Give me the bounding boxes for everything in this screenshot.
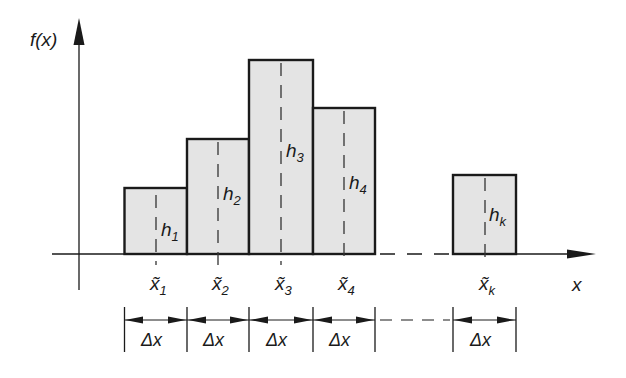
arrow-left-icon — [454, 317, 472, 324]
arrow-right-icon — [356, 317, 374, 324]
center-labels: x̃1 x̃2 x̃3 x̃4 x̃k — [149, 273, 497, 298]
width-label-1: Δx — [140, 330, 163, 350]
width-dimensions — [125, 307, 517, 352]
arrow-right-icon — [497, 317, 515, 324]
width-label-3: Δx — [265, 330, 288, 350]
arrow-left-icon — [250, 317, 268, 324]
width-label-k: Δx — [469, 330, 492, 350]
arrow-right-icon — [168, 317, 186, 324]
x-axis-label: x — [571, 274, 583, 295]
arrow-left-icon — [314, 317, 332, 324]
x-axis: x — [52, 250, 596, 296]
center-label-3: x̃3 — [274, 273, 293, 298]
center-label-4: x̃4 — [337, 273, 355, 298]
center-label-k: x̃k — [478, 273, 497, 298]
arrow-right-icon — [294, 317, 312, 324]
width-label-2: Δx — [202, 330, 225, 350]
y-axis-label: f(x) — [30, 29, 57, 50]
center-label-1: x̃1 — [149, 273, 167, 298]
center-label-2: x̃2 — [211, 273, 230, 298]
dimension-arrowheads — [125, 317, 515, 324]
histogram-diagram: f(x) x h1 h2 h3 h4 hk x̃1 x̃2 x̃3 x̃4 — [0, 0, 626, 378]
bars — [125, 60, 517, 254]
x-axis-arrow-icon — [567, 250, 596, 259]
width-label-4: Δx — [328, 330, 351, 350]
arrow-left-icon — [188, 317, 206, 324]
width-labels: Δx Δx Δx Δx Δx — [140, 330, 492, 350]
arrow-right-icon — [230, 317, 248, 324]
y-axis: f(x) — [30, 18, 85, 290]
y-axis-arrow-icon — [74, 18, 85, 45]
arrow-left-icon — [125, 317, 143, 324]
